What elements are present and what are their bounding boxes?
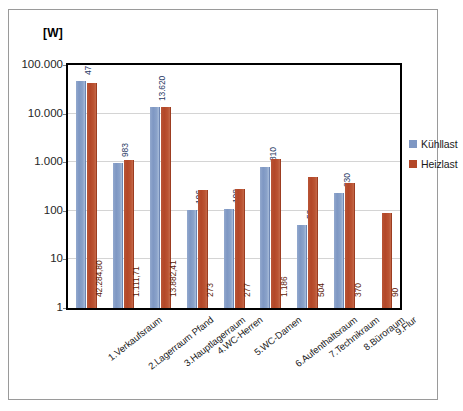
x-axis-category-labels: 1.Verkaufsraum2.Lagerraum Pfand3.Hauptla… [66, 310, 402, 405]
plot-area: 47.92142.284,809831.111,7113.62013.882,4… [66, 63, 402, 310]
y-axis-unit-label: [W] [43, 26, 63, 40]
bar-kuehllast[interactable] [224, 209, 234, 308]
bar-value-label: 13.882,41 [169, 261, 178, 297]
bar-value-label: 90 [391, 288, 400, 297]
y-axis: 100.00010.0001.000100101 [9, 63, 63, 310]
y-axis-tick-label: 1 [11, 302, 63, 314]
y-axis-tick-label: 100 [11, 205, 63, 217]
legend-item-kühllast[interactable]: Kühllast [409, 138, 463, 149]
bar-value-label: 273 [206, 283, 215, 297]
chart-legend: KühllastHeizlast [409, 138, 463, 178]
bar-value-label: 47.921 [84, 65, 93, 75]
legend-swatch-icon [409, 160, 417, 168]
y-axis-tick-label: 10.000 [11, 108, 63, 120]
bar-kuehllast[interactable] [297, 225, 307, 308]
chart-frame: [W] 100.00010.0001.000100101 47.92142.28… [8, 9, 438, 400]
bar-value-label: 277 [243, 283, 252, 297]
bars-layer: 47.92142.284,809831.111,7113.62013.882,4… [68, 65, 400, 308]
y-axis-tick-label: 10 [11, 254, 63, 266]
bar-kuehllast[interactable] [187, 210, 197, 308]
legend-swatch-icon [409, 140, 417, 148]
bar-kuehllast[interactable] [113, 163, 123, 308]
bar-value-label: 504 [317, 283, 326, 297]
bar-kuehllast[interactable] [334, 193, 344, 308]
bar-kuehllast[interactable] [150, 107, 160, 308]
legend-label: Heizlast [421, 158, 458, 170]
bar-value-label: 1.186 [280, 276, 289, 297]
bar-value-label: 370 [354, 283, 363, 297]
legend-label: Kühllast [421, 138, 458, 150]
bar-value-label: 13.620 [158, 76, 167, 101]
bar-kuehllast[interactable] [76, 81, 86, 308]
bar-value-label: 1.111,71 [132, 266, 141, 297]
legend-item-heizlast[interactable]: Heizlast [409, 158, 463, 169]
bar-value-label: 983 [121, 143, 130, 157]
y-axis-tick-label: 100.000 [11, 59, 63, 71]
y-axis-tick-label: 1.000 [11, 156, 63, 168]
bar-kuehllast[interactable] [260, 167, 270, 308]
bar-value-label: 42.284,80 [95, 261, 104, 297]
